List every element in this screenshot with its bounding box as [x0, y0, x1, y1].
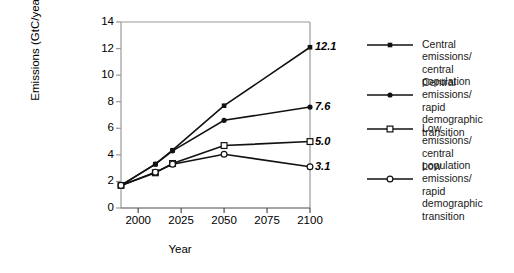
legend-label: Low emissions/ rapid demographic transit… [422, 160, 483, 222]
open-square-icon [365, 122, 415, 136]
open-circle-icon [365, 172, 415, 186]
emissions-line-chart: Emissions (GtC/year) Year 0 2 4 6 8 10 1… [0, 0, 514, 273]
filled-circle-icon [365, 88, 415, 102]
filled-square-icon [365, 38, 415, 52]
series-end-label-low-rapid: 3.1 [315, 160, 330, 172]
series-end-label-low-central: 5.0 [315, 135, 330, 147]
series-end-label-central-rapid: 7.6 [315, 100, 330, 112]
series-end-label-central-central: 12.1 [315, 40, 336, 52]
